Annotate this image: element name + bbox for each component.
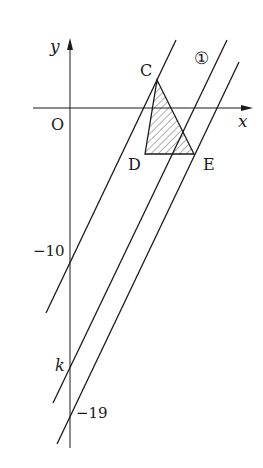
intercept-k-label: k [55,356,65,375]
origin-label: O [51,115,64,134]
x-axis-label: x [238,111,248,131]
intercept-minus-19-label: −19 [76,404,108,422]
point-E-label: E [203,155,215,174]
y-axis-arrow-icon [67,38,73,50]
coordinate-diagram: y x O C D E ① −10 k −19 [0,0,263,468]
y-axis-label: y [49,36,60,56]
point-D-label: D [128,155,141,174]
point-C-label: C [140,61,152,80]
line-through-E [57,62,239,444]
line-through-C [46,40,176,313]
line-1-marker: ① [194,48,209,68]
intercept-minus-10-label: −10 [33,242,65,260]
y-axis [67,38,73,448]
line-1 [53,40,227,403]
